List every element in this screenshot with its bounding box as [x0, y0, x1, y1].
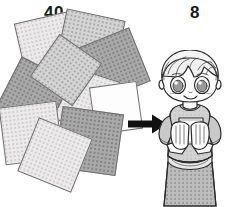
child-figure — [146, 50, 232, 207]
scattered-paper-pile — [0, 14, 145, 192]
illustration-scene: 40 8 — [0, 0, 232, 207]
right-paper-count-label: 8 — [190, 4, 200, 21]
